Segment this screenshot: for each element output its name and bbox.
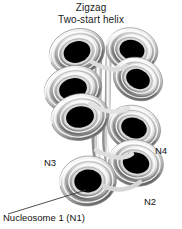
figure-zigzag-two-start-helix: Zigzag Two-start helix: [0, 0, 182, 229]
chromatin-structure-illustration: [0, 0, 182, 229]
label-n3: N3: [44, 157, 56, 168]
label-nucleosome-1: Nucleosome 1 (N1): [3, 212, 85, 223]
label-n2: N2: [144, 196, 156, 207]
label-n4: N4: [155, 145, 167, 156]
